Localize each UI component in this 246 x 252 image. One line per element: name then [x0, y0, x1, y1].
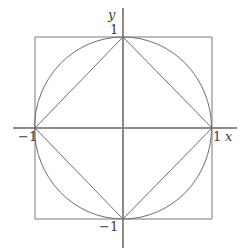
y-axis-tick-label-negative-one: −1 — [99, 220, 118, 233]
figure-canvas: y 1 1 x −1 −1 — [0, 0, 246, 252]
x-axis-label: x — [225, 130, 232, 143]
x-axis-tick-label-positive-one: 1 — [213, 130, 221, 143]
y-axis-tick-label-positive-one: 1 — [110, 23, 118, 36]
x-axis-tick-label-negative-one: −1 — [18, 130, 37, 143]
y-axis-label: y — [108, 8, 115, 21]
geometry-figure — [0, 0, 246, 252]
